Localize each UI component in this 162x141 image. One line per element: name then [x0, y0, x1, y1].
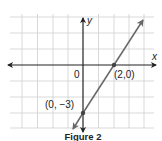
point-2-0: [112, 63, 116, 67]
point-0-neg3: [81, 111, 85, 115]
origin-label: 0: [74, 69, 80, 80]
coordinate-plane-figure: y x 0 (2,0) (0, −3) Figure 2: [0, 0, 162, 141]
point-2-0-label: (2,0): [114, 69, 135, 80]
figure-caption: Figure 2: [65, 131, 102, 141]
x-axis-label: x: [151, 51, 158, 62]
y-axis-label: y: [86, 15, 93, 26]
point-0-neg3-label: (0, −3): [45, 99, 74, 110]
